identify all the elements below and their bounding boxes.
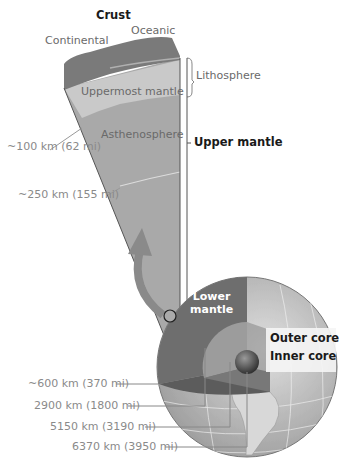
depth-100km-label: ~100 km (62 mi): [7, 140, 101, 153]
depth-250km-label: ~250 km (155 mi): [18, 188, 119, 201]
asthenosphere-label: Asthenosphere: [101, 128, 184, 141]
depth-2900km-label: 2900 km (1800 mi): [34, 399, 140, 412]
earth-layers-diagram: [0, 0, 345, 467]
inner-core-label: Inner core: [270, 349, 336, 363]
depth-600km-label: ~600 km (370 mi): [28, 377, 129, 390]
lower-mantle-label: Lower mantle: [190, 290, 233, 316]
oceanic-label: Oceanic: [131, 24, 175, 37]
continental-label: Continental: [45, 34, 109, 47]
lithosphere-bracket: [187, 58, 194, 97]
uppermost-mantle-label: Uppermost mantle: [81, 85, 184, 98]
lithosphere-label: Lithosphere: [196, 69, 261, 82]
outer-core-label: Outer core: [270, 331, 339, 345]
depth-6370km-label: 6370 km (3950 mi): [72, 440, 178, 453]
depth-5150km-label: 5150 km (3190 mi): [50, 420, 156, 433]
crust-label: Crust: [96, 8, 131, 22]
inner-core-sphere: [235, 350, 259, 374]
zoom-location-marker: [164, 310, 176, 322]
upper-mantle-label: Upper mantle: [194, 135, 282, 149]
